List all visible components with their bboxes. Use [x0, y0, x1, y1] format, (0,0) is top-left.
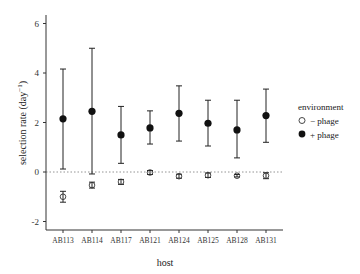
minus-phage-point: [263, 173, 269, 179]
y-tick-label: 0: [35, 167, 40, 177]
minus-phage-point: [118, 179, 124, 185]
x-axis: AB113AB114AB117AB121AB124AB125AB128AB131: [46, 230, 283, 245]
legend-title: environment: [298, 102, 344, 112]
plus-phage-point: [146, 111, 153, 144]
plus-phage-point: [117, 106, 124, 163]
plot-area: [46, 48, 283, 202]
plus-phage-point: [175, 86, 182, 141]
open-circle-marker-icon: [299, 118, 305, 124]
plus-phage-point: [233, 100, 240, 158]
x-tick-label: AB128: [226, 236, 248, 245]
x-tick-label: AB124: [168, 236, 190, 245]
minus-phage-point: [234, 173, 240, 179]
x-tick-label: AB125: [197, 236, 219, 245]
minus-phage-point: [176, 173, 182, 179]
y-tick-label: 2: [35, 118, 40, 128]
legend-minus-phage: − phage: [310, 116, 339, 126]
legend-plus-phage: + phage: [310, 130, 339, 140]
plus-phage-point: [59, 69, 66, 169]
minus-phage-point: [60, 191, 66, 202]
x-tick-label: AB131: [255, 236, 277, 245]
x-tick-label: AB121: [139, 236, 161, 245]
y-tick-label: 6: [35, 19, 40, 29]
x-tick-label: AB113: [52, 236, 74, 245]
y-tick-label: -2: [32, 217, 40, 227]
y-tick-label: 4: [35, 68, 40, 78]
filled-circle-marker-icon: [299, 131, 306, 138]
plus-phage-point: [88, 48, 95, 174]
plus-phage-point: [204, 100, 211, 146]
x-axis-title: host: [157, 257, 174, 268]
x-tick-label: AB117: [110, 236, 132, 245]
minus-phage-point: [147, 170, 153, 176]
y-axis-title: selection rate (day−1): [16, 81, 29, 165]
minus-phage-point: [205, 172, 211, 178]
selection-rate-chart: -20246 AB113AB114AB117AB121AB124AB125AB1…: [0, 0, 360, 274]
y-axis: -20246: [32, 15, 47, 230]
minus-phage-point: [89, 182, 95, 188]
x-tick-label: AB114: [81, 236, 103, 245]
legend: environment − phage + phage: [298, 102, 344, 140]
plus-phage-point: [262, 89, 269, 142]
